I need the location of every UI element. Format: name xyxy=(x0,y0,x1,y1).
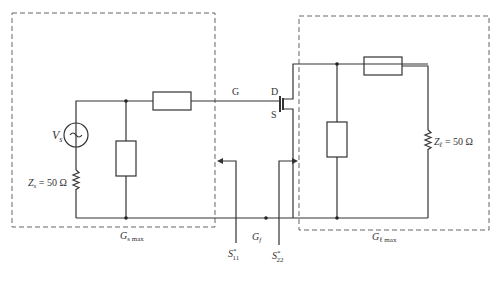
s22-arrowhead xyxy=(292,158,298,164)
output-shunt-element xyxy=(327,122,347,157)
drain-label: D xyxy=(271,86,278,97)
output-series-element xyxy=(364,57,402,75)
source-resistor-icon xyxy=(73,170,79,190)
source-wire xyxy=(283,109,293,218)
junction-dot xyxy=(264,216,268,220)
gl-max-label: Gℓ max xyxy=(372,231,397,244)
s22-label: S*22 xyxy=(272,249,284,264)
input-shunt-element xyxy=(116,141,136,176)
zs-label: Zs = 50 Ω xyxy=(28,177,67,190)
input-matching-box xyxy=(12,13,215,227)
input-series-element xyxy=(153,92,191,110)
vs-label: Vs xyxy=(52,128,62,144)
gate-label: G xyxy=(232,86,239,97)
input-top-wire xyxy=(76,101,153,147)
gs-max-label: Gs max xyxy=(120,230,144,243)
gf-label: Gf xyxy=(252,231,262,244)
junction-dot xyxy=(124,216,128,220)
junction-dot xyxy=(124,99,128,103)
circuit-diagram: Vs Zs = 50 Ω G D S Zℓ = 50 Ω Gs max Gf G… xyxy=(0,0,500,286)
junction-dot xyxy=(335,216,339,220)
drain-wire xyxy=(283,64,428,99)
s11-label: S*11 xyxy=(228,247,240,262)
zl-label: Zℓ = 50 Ω xyxy=(434,136,473,149)
s11-arrowhead xyxy=(217,158,223,164)
load-resistor-icon xyxy=(425,130,431,150)
s11-arrow xyxy=(221,161,236,243)
source-label: S xyxy=(271,109,277,120)
junction-dot xyxy=(335,62,339,66)
